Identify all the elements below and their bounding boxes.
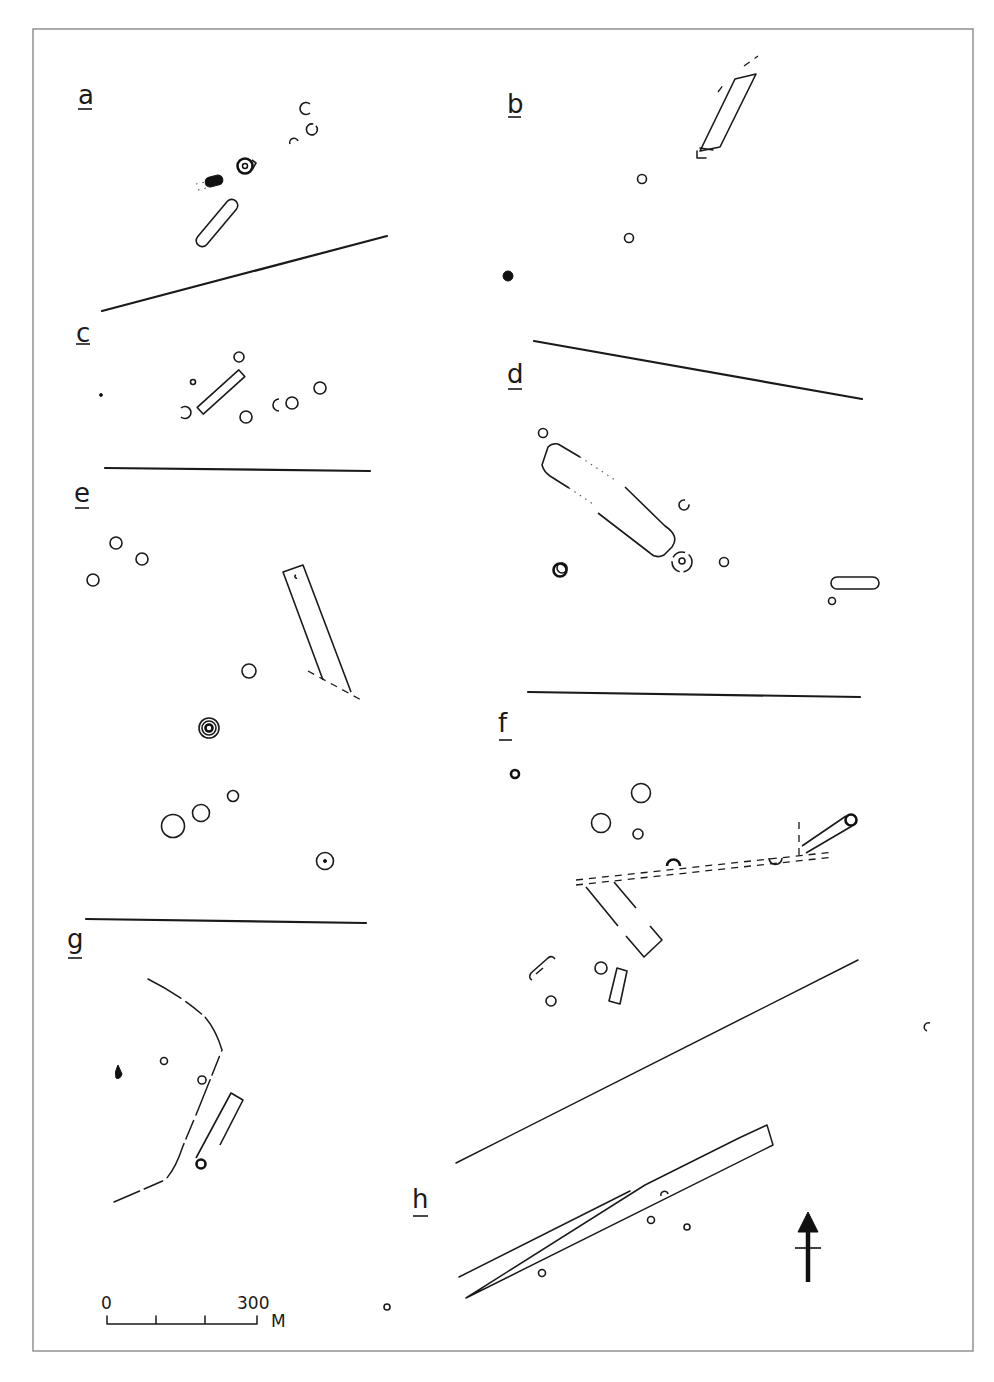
cursus — [459, 1125, 773, 1298]
solid-mound — [204, 174, 224, 188]
panel-label-g: g — [67, 924, 84, 954]
ring-ditch-small — [304, 122, 319, 137]
ring-ditch — [633, 829, 643, 839]
panel-divider — [528, 692, 860, 697]
dashed-terminal — [308, 671, 363, 701]
ring-ditch-large — [162, 815, 185, 838]
panel-label-b: b — [507, 89, 524, 119]
panel-d: d — [507, 359, 879, 697]
ring-ditch-partial — [679, 500, 689, 510]
figure-frame — [33, 29, 973, 1351]
solid-mound — [115, 1065, 122, 1079]
panel-e: e — [74, 478, 366, 923]
long-enclosure-east — [598, 487, 675, 557]
ring-centre — [679, 558, 685, 564]
ring-ditch — [193, 805, 210, 822]
ring-ditch-bold — [846, 815, 857, 826]
ring-ditch — [720, 558, 729, 567]
ring-ditch-partial — [290, 138, 298, 144]
ring-ditch — [242, 664, 256, 678]
double-dashed-track-lower — [576, 857, 834, 885]
panel-divider — [105, 468, 370, 471]
ring-ditch — [238, 159, 253, 174]
ring-ditch — [314, 382, 326, 394]
ring-ditch-small — [684, 1224, 690, 1230]
ring-ditch-partial — [273, 399, 279, 411]
ring-ditch-partial — [661, 1191, 668, 1196]
dashed-boundary-curve — [114, 979, 222, 1202]
ring-ditch-small — [539, 1270, 546, 1277]
long-enclosure-broken — [586, 882, 662, 957]
long-enclosure — [283, 565, 351, 692]
long-enclosure-west — [542, 444, 580, 488]
panel-g: g — [67, 924, 243, 1202]
double-dashed-track-upper — [576, 852, 834, 880]
enclosure-end — [697, 148, 713, 158]
long-enclosure-dotted — [569, 457, 618, 506]
long-enclosure — [197, 370, 245, 414]
ring-ditch-middle — [202, 721, 216, 735]
panel-label-d: d — [507, 359, 524, 389]
ring-ditch — [638, 175, 647, 184]
small-rectangle — [609, 968, 627, 1004]
panel-label-h: h — [412, 1184, 428, 1214]
panel-label-a: a — [78, 80, 94, 110]
ring-ditch — [240, 411, 252, 423]
ring-ditch-partial — [181, 406, 191, 418]
ring-ditch — [234, 352, 244, 362]
panel-c: c — [76, 318, 370, 471]
ring-ditch — [632, 784, 651, 803]
panel-h: h — [384, 1125, 773, 1310]
ring-ditch — [595, 962, 607, 974]
dashed-extension — [718, 56, 758, 92]
solid-mound — [503, 271, 513, 281]
ring-ditch — [546, 996, 556, 1006]
curved-enclosure — [530, 957, 555, 980]
panel-label-f: f — [498, 708, 508, 738]
ring-ditch-tiny — [829, 598, 836, 605]
scale-bar: 0 300 M — [101, 1293, 286, 1331]
ring-ditch-small — [161, 1058, 168, 1065]
scale-unit-label: M — [271, 1311, 286, 1331]
site-plans-figure: a b c — [0, 0, 994, 1382]
long-enclosure — [196, 1093, 243, 1158]
ring-ditch — [286, 397, 298, 409]
panel-divider — [456, 960, 858, 1163]
ring-ditch-double — [554, 564, 567, 577]
ring-ditch-bold — [197, 1160, 206, 1169]
ring-ditch-small — [384, 1304, 390, 1310]
long-enclosure — [194, 197, 240, 249]
long-enclosure — [700, 74, 756, 151]
panel-divider — [534, 341, 862, 399]
small-enclosure — [831, 577, 879, 589]
ring-ditch — [110, 537, 122, 549]
ring-ditch — [625, 234, 634, 243]
ring-ditch-small — [648, 1217, 655, 1224]
panel-f: f — [456, 708, 930, 1163]
point-feature — [100, 394, 103, 397]
ring-ditch-small — [300, 103, 310, 115]
ring-centre — [324, 860, 327, 863]
ring-ditch — [136, 553, 148, 565]
panel-divider — [102, 236, 387, 311]
ring-centre — [243, 164, 248, 169]
panel-a: a — [78, 80, 387, 311]
ring-ditch-partial — [667, 860, 680, 867]
enclosure-mark — [295, 575, 297, 578]
ring-ditch-core — [206, 725, 213, 732]
scale-start-label: 0 — [101, 1293, 112, 1313]
north-arrow-icon — [795, 1212, 821, 1282]
scale-end-label: 300 — [237, 1293, 269, 1313]
dotted-trace — [196, 182, 206, 190]
ring-ditch-double — [672, 552, 692, 572]
panel-label-e: e — [74, 478, 90, 508]
panel-divider — [86, 919, 366, 923]
ring-ditch-small — [198, 1076, 206, 1084]
ring-ditch-tiny — [191, 380, 196, 385]
ring-ditch — [87, 574, 99, 586]
ring-ditch — [592, 814, 611, 833]
panel-b: b — [503, 56, 862, 399]
ring-ditch — [539, 429, 548, 438]
ring-ditch — [228, 791, 239, 802]
scale-ticks — [107, 1316, 257, 1324]
